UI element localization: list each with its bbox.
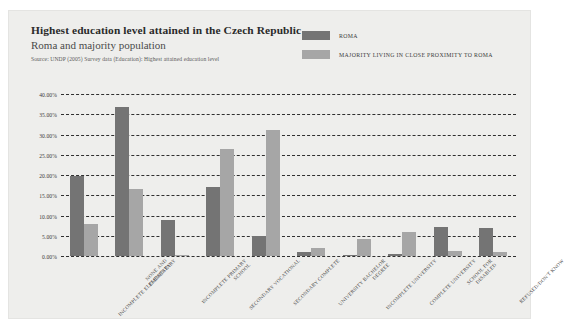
legend-swatch-icon (302, 31, 330, 40)
bar-group (198, 94, 244, 256)
y-axis-tick-label: 30.00% (39, 133, 57, 139)
plot-area: 40.00%35.00%30.00%25.00%20.00%15.00%10.0… (61, 94, 516, 256)
bar-group (243, 94, 289, 256)
bar-roma (343, 255, 357, 256)
chart-subtitle: Roma and majority population (31, 38, 291, 52)
bar-majority (129, 189, 143, 256)
chart-title: Highest education level attained in the … (31, 23, 291, 37)
gridline: 0.00% (61, 256, 516, 257)
bar-majority (448, 251, 462, 256)
bar-group (289, 94, 335, 256)
legend-item: ROMA (302, 29, 493, 42)
bar-roma (206, 187, 220, 256)
bar-group (471, 94, 517, 256)
bar-majority (402, 232, 416, 256)
legend-label: MAJORITY LIVING IN CLOSE PROXIMITY TO RO… (339, 52, 493, 58)
bar-majority (175, 255, 189, 256)
bar-group (107, 94, 153, 256)
y-axis-tick-label: 20.00% (39, 173, 57, 179)
bar-majority (311, 248, 325, 256)
bar-roma (70, 176, 84, 256)
bar-roma (434, 227, 448, 256)
legend-swatch-icon (302, 50, 330, 59)
bar-majority (84, 224, 98, 256)
x-axis-tick-label: REFUSED/DON'T KNOW (519, 258, 566, 305)
bar-roma (115, 107, 129, 256)
y-axis-tick-label: 15.00% (39, 193, 57, 199)
chart-source-note: Source: UNDP (2005) Survey data (Educati… (31, 55, 291, 63)
bar-group (61, 94, 107, 256)
bar-majority (266, 130, 280, 256)
bar-roma (479, 228, 493, 256)
y-axis-tick-label: 40.00% (39, 92, 57, 98)
bar-groups (61, 94, 516, 256)
bar-majority (357, 239, 371, 256)
bar-roma (252, 236, 266, 256)
bar-roma (388, 254, 402, 256)
x-axis-tick-label: UNIVERSITY BACHELORDEGREE (338, 258, 392, 312)
bar-roma (161, 220, 175, 256)
bar-majority (493, 252, 507, 256)
bar-group (380, 94, 426, 256)
bar-majority (220, 149, 234, 256)
bar-group (425, 94, 471, 256)
x-axis-tick-label: INCOMPLETE PRIMARYSCHOOL (201, 258, 253, 310)
title-block: Highest education level attained in the … (31, 23, 291, 63)
chart-header: Highest education level attained in the … (9, 11, 530, 73)
chart-figure: Highest education level attained in the … (8, 10, 531, 319)
y-axis-tick-label: 35.00% (39, 112, 57, 118)
bar-roma (297, 252, 311, 256)
chart-legend: ROMAMAJORITY LIVING IN CLOSE PROXIMITY T… (302, 29, 493, 67)
bar-group (152, 94, 198, 256)
legend-item: MAJORITY LIVING IN CLOSE PROXIMITY TO RO… (302, 48, 493, 61)
y-axis-tick-label: 10.00% (39, 214, 57, 220)
legend-label: ROMA (339, 33, 358, 39)
x-axis-labels: NONE ANDINCOMPLETE ELEMENTARYELEMENTARYI… (61, 258, 516, 320)
y-axis-tick-label: 0.00% (42, 254, 57, 260)
bar-group (334, 94, 380, 256)
y-axis-tick-label: 25.00% (39, 153, 57, 159)
x-axis-tick-label: SECONDARY COMPLETE (292, 258, 341, 307)
y-axis-tick-label: 5.00% (42, 234, 57, 240)
